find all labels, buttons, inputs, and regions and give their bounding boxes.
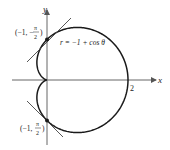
cardioid-diagram: y x 2 r = −1 + cos θ (−1, − π 2 ) (−1, π… [0, 0, 170, 150]
point-top-label: (−1, − π 2 ) [15, 25, 43, 40]
svg-text:π: π [34, 25, 37, 31]
tangent-line-bottom [27, 101, 63, 137]
svg-text:): ) [42, 124, 45, 133]
equation-label: r = −1 + cos θ [60, 38, 105, 47]
svg-text:): ) [40, 28, 43, 37]
svg-text:π: π [36, 121, 39, 127]
y-axis-label: y [42, 4, 47, 14]
point-top [45, 38, 49, 42]
svg-text:2: 2 [34, 34, 37, 40]
point-bottom [45, 119, 49, 123]
x-tick-label: 2 [130, 84, 134, 93]
svg-text:(−1,: (−1, [20, 124, 32, 133]
point-bottom-label: (−1, π 2 ) [20, 121, 45, 136]
svg-text:2: 2 [36, 130, 39, 136]
x-axis-label: x [157, 75, 162, 85]
svg-text:(−1, −: (−1, − [15, 28, 33, 37]
